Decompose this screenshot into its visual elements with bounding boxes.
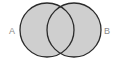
set-a-label: A: [9, 26, 15, 36]
set-b-label: B: [104, 26, 110, 36]
venn-diagram: A B: [0, 0, 122, 61]
